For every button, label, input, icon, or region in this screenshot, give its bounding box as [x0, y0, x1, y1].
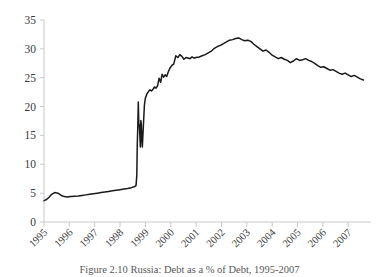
x-tick-label: 1995 — [27, 227, 50, 250]
x-tick-label: 2006 — [306, 227, 329, 250]
x-tick-label: 1996 — [52, 227, 75, 250]
y-tick-label: 25 — [25, 72, 37, 84]
y-tick-label: 10 — [25, 158, 37, 170]
x-tick-label: 1999 — [128, 227, 151, 250]
data-series-line — [44, 38, 363, 201]
figure-caption: Figure 2.10 Russia: Debt as a % of Debt,… — [0, 264, 379, 275]
x-tick-label: 2005 — [280, 227, 303, 250]
y-axis-tick-labels: 05101520253035 — [25, 14, 37, 228]
x-tick-label: 2004 — [255, 226, 278, 249]
x-tick-label: 1997 — [77, 227, 100, 250]
chart-svg: 05101520253035 1995199619971998199920002… — [0, 0, 379, 277]
y-tick-label: 15 — [25, 129, 37, 141]
y-tick-label: 0 — [30, 216, 36, 228]
x-tick-label: 2003 — [230, 227, 253, 250]
x-tick-label: 2002 — [204, 227, 227, 250]
y-axis-tick-marks — [40, 20, 44, 222]
y-tick-label: 5 — [30, 187, 36, 199]
chart-figure: 05101520253035 1995199619971998199920002… — [0, 0, 379, 277]
x-tick-label: 2001 — [179, 227, 202, 250]
y-tick-label: 35 — [25, 14, 37, 26]
y-tick-label: 20 — [25, 101, 37, 113]
line-chart: 05101520253035 1995199619971998199920002… — [0, 0, 379, 277]
x-axis-tick-labels: 1995199619971998199920002001200220032004… — [27, 226, 354, 249]
x-tick-label: 2007 — [331, 227, 354, 250]
y-tick-label: 30 — [25, 43, 37, 55]
x-tick-label: 2000 — [154, 227, 177, 250]
x-tick-label: 1998 — [103, 227, 126, 250]
x-axis-tick-marks — [44, 222, 348, 227]
